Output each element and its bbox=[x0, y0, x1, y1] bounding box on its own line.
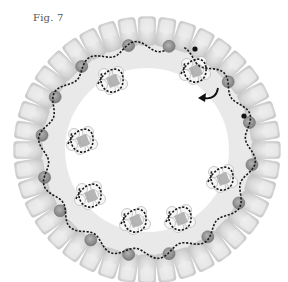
bead bbox=[233, 197, 245, 209]
bead bbox=[54, 205, 66, 217]
bead bbox=[123, 248, 135, 260]
ring-tile bbox=[138, 255, 155, 282]
ring-tile bbox=[138, 17, 155, 46]
path-end-dot bbox=[192, 46, 197, 51]
path-end-dot bbox=[241, 113, 246, 118]
nucleosome-ring-diagram bbox=[0, 0, 288, 282]
bead bbox=[163, 40, 175, 52]
bead bbox=[49, 91, 61, 103]
bead bbox=[222, 76, 234, 88]
bead bbox=[85, 234, 97, 246]
ring-tile bbox=[252, 141, 281, 158]
ring-tile bbox=[14, 141, 43, 158]
